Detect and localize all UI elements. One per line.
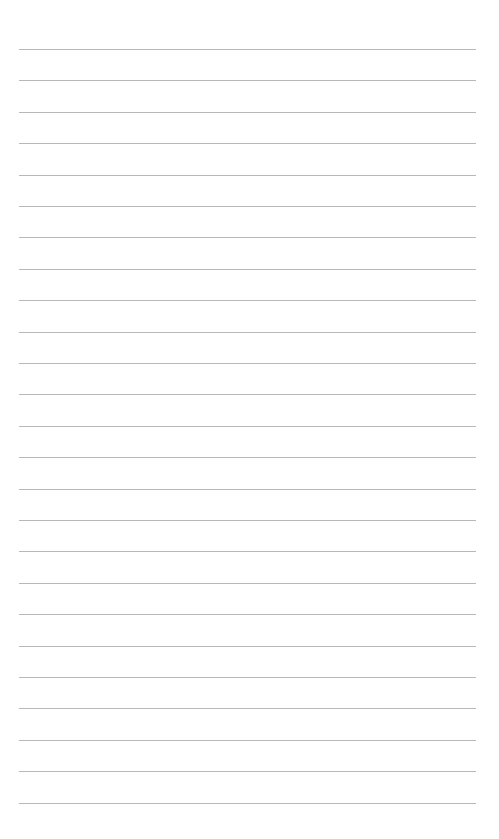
ruled-line — [19, 457, 476, 458]
ruled-line — [19, 363, 476, 364]
ruled-line — [19, 551, 476, 552]
ruled-line — [19, 803, 476, 804]
ruled-line — [19, 677, 476, 678]
ruled-line — [19, 489, 476, 490]
ruled-line — [19, 332, 476, 333]
ruled-line — [19, 394, 476, 395]
ruled-line — [19, 143, 476, 144]
ruled-line — [19, 646, 476, 647]
ruled-line — [19, 300, 476, 301]
ruled-line — [19, 583, 476, 584]
ruled-line — [19, 112, 476, 113]
ruled-line — [19, 175, 476, 176]
ruled-line — [19, 771, 476, 772]
ruled-line — [19, 520, 476, 521]
ruled-line — [19, 269, 476, 270]
ruled-line — [19, 740, 476, 741]
ruled-line — [19, 614, 476, 615]
ruled-line — [19, 708, 476, 709]
ruled-line — [19, 237, 476, 238]
ruled-line — [19, 426, 476, 427]
ruled-line — [19, 80, 476, 81]
ruled-line — [19, 206, 476, 207]
ruled-line — [19, 49, 476, 50]
lined-paper-page — [0, 0, 499, 839]
